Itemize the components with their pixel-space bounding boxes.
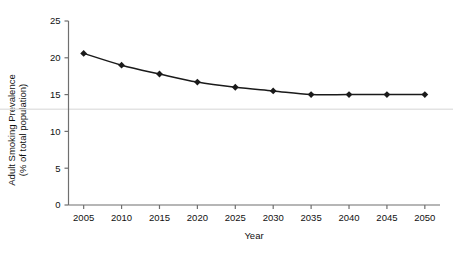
svg-text:2050: 2050 (414, 212, 435, 223)
y-axis (65, 21, 69, 205)
svg-text:15: 15 (50, 89, 61, 100)
data-series-line (84, 53, 425, 94)
svg-text:0: 0 (55, 199, 60, 210)
svg-text:2035: 2035 (301, 212, 322, 223)
svg-text:2045: 2045 (376, 212, 397, 223)
svg-text:2020: 2020 (187, 212, 208, 223)
svg-text:5: 5 (55, 163, 60, 174)
svg-text:2030: 2030 (263, 212, 284, 223)
svg-text:2010: 2010 (111, 212, 132, 223)
svg-text:2040: 2040 (338, 212, 359, 223)
x-tick-labels: 2005201020152020202520302035204020452050 (73, 212, 435, 223)
y-tick-labels: 0510152025 (50, 15, 61, 210)
svg-text:20: 20 (50, 52, 61, 63)
data-series-markers (80, 50, 428, 98)
svg-text:2015: 2015 (149, 212, 170, 223)
svg-text:2005: 2005 (73, 212, 94, 223)
chart-container: Adult Smoking Prevalence (% of total pop… (0, 0, 453, 253)
x-axis (69, 205, 441, 209)
svg-text:10: 10 (50, 126, 61, 137)
svg-text:2025: 2025 (225, 212, 246, 223)
svg-text:25: 25 (50, 15, 61, 26)
plot-area: 0510152025 20052010201520202025203020352… (0, 0, 453, 253)
